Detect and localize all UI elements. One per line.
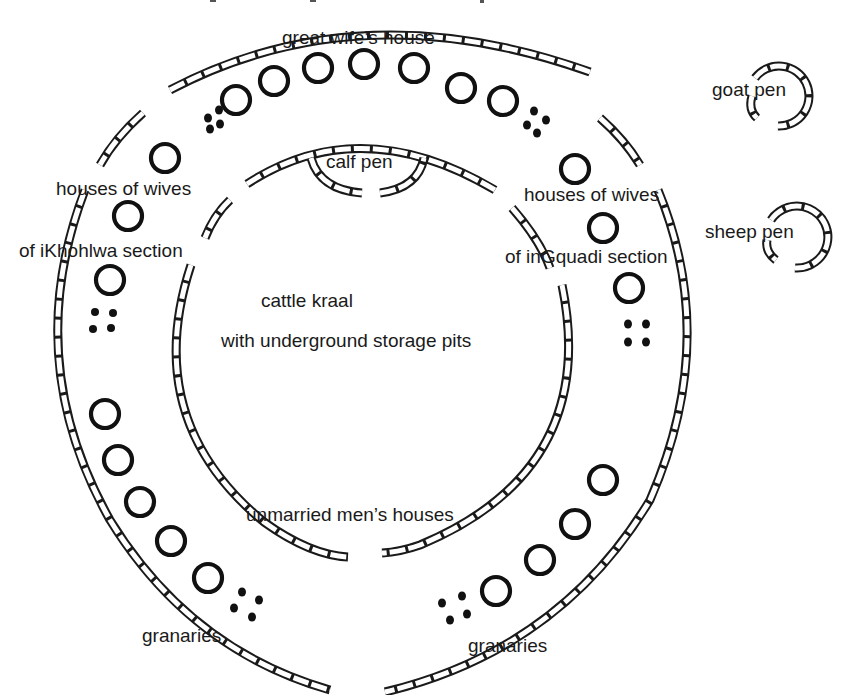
homestead-plan-diagram: great wife’s house calf pen goat pen she… [0,0,848,695]
outer-wall [58,35,687,692]
house-icon [91,400,119,428]
label-unmarried-men-houses: unmarried men’s houses [246,504,454,525]
house-icon [114,202,142,230]
house-icon [126,488,154,516]
house-icon [194,564,222,592]
label-great-wife-house: great wife’s house [282,27,435,48]
great-wife-house-icon [350,50,378,78]
house-icon [589,466,617,494]
house-icon [151,144,179,172]
house-icon [526,546,554,574]
houses-right-side [561,155,643,302]
label-wives-right-line1: houses of wives [524,184,659,205]
house-icon [561,155,589,183]
house-icon [260,67,288,95]
house-icon [96,266,124,294]
cropped-caption-remnant [210,0,484,3]
label-wives-left-line2: of iKhohlwa section [19,240,183,261]
house-icon [400,54,428,82]
granary-cluster-bottom-left [230,588,263,622]
house-icon [222,86,250,114]
house-icon [489,87,517,115]
granary-cluster-bottom-right [438,592,471,625]
house-icon [157,527,185,555]
houses-top-arc [222,50,517,115]
inner-wall [176,148,568,557]
granary-cluster-right [624,320,650,347]
houses-bottom-right [482,466,617,605]
label-calf-pen: calf pen [326,151,393,172]
house-icon [561,510,589,538]
label-wives-right-line2: of inGquadi section [505,246,668,267]
granary-cluster-top-right [523,107,550,138]
house-icon [615,274,643,302]
house-icon [589,214,617,242]
label-wives-left-line1: houses of wives [56,178,191,199]
label-cattle-kraal: cattle kraal [261,290,353,311]
label-storage-pits: with underground storage pits [220,330,471,351]
house-icon [304,54,332,82]
granary-cluster-left [89,308,117,333]
granary-cluster-top-left [204,106,224,134]
house-icon [104,446,132,474]
label-granaries-right: granaries [468,635,547,656]
label-granaries-left: granaries [142,625,221,646]
house-icon [482,577,510,605]
label-sheep-pen: sheep pen [705,221,794,242]
house-icon [447,74,475,102]
label-goat-pen: goat pen [712,79,786,100]
